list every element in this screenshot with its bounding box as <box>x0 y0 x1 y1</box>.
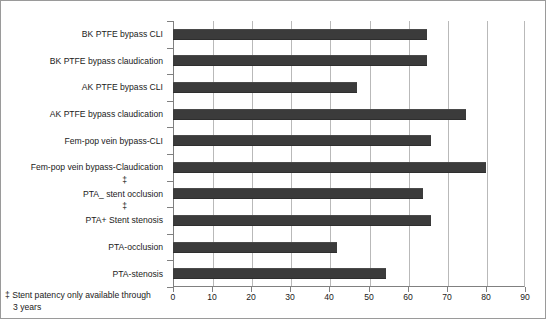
bar-slot <box>173 260 525 287</box>
footnote-line-2: 3 years <box>5 302 173 314</box>
footnote: ‡ Stent patency only available through 3… <box>5 290 173 313</box>
x-tick-label: 30 <box>285 292 295 302</box>
y-axis-category-label: PTA-occlusion <box>108 242 163 252</box>
y-axis-category-label: Fem-pop vein bypass-Claudication <box>31 162 163 172</box>
y-axis-label-row: BK PTFE bypass CLI <box>1 21 169 48</box>
bar[interactable] <box>173 268 386 279</box>
bar[interactable] <box>173 215 431 226</box>
x-tick-label: 20 <box>246 292 256 302</box>
y-axis-category-label: PTA-stenosis <box>113 269 163 279</box>
x-tick-label: 90 <box>520 292 530 302</box>
y-axis-label-row: PTA-stenosis <box>1 260 169 287</box>
x-tick-label: 70 <box>442 292 452 302</box>
bars-layer <box>173 21 525 287</box>
y-axis-label-row: AK PTFE bypass CLI <box>1 74 169 101</box>
y-axis-label-row: Fem-pop vein bypass-CLI <box>1 127 169 154</box>
bar-slot <box>173 21 525 48</box>
bar-slot <box>173 127 525 154</box>
bar-slot <box>173 101 525 128</box>
dagger-annotation: ‡ <box>122 175 127 185</box>
bar[interactable] <box>173 29 427 40</box>
bar-slot <box>173 181 525 208</box>
x-tick-label: 10 <box>207 292 217 302</box>
bar[interactable] <box>173 55 427 66</box>
bar[interactable] <box>173 162 486 173</box>
bar-slot <box>173 207 525 234</box>
y-axis-label-row: PTA-occlusion <box>1 234 169 261</box>
y-axis-category-label: Fem-pop vein bypass-CLI <box>65 136 163 146</box>
footnote-line-1: ‡ Stent patency only available through <box>5 290 151 300</box>
y-axis-category-label: BK PTFE bypass claudication <box>50 56 163 66</box>
bar[interactable] <box>173 242 337 253</box>
y-axis-category-label: PTA+ Stent stenosis <box>86 215 163 225</box>
y-axis-label-row: ‡ PTA_ stent occlusion <box>1 181 169 208</box>
y-axis-label-row: BK PTFE bypass claudication <box>1 48 169 75</box>
y-axis-category-label: AK PTFE bypass CLI <box>82 82 163 92</box>
y-axis-label-row: Fem-pop vein bypass-Claudication <box>1 154 169 181</box>
bar-slot <box>173 48 525 75</box>
bar-slot <box>173 154 525 181</box>
y-axis-category-label: AK PTFE bypass claudication <box>50 109 163 119</box>
y-axis-label-row: ‡ PTA+ Stent stenosis <box>1 207 169 234</box>
y-axis-category-label: PTA_ stent occlusion <box>83 189 163 199</box>
bar-slot <box>173 74 525 101</box>
x-tick-label: 60 <box>403 292 413 302</box>
bar[interactable] <box>173 188 423 199</box>
x-tick-label: 40 <box>324 292 334 302</box>
y-axis-label-row: AK PTFE bypass claudication <box>1 101 169 128</box>
bar[interactable] <box>173 82 357 93</box>
y-axis-labels: BK PTFE bypass CLI BK PTFE bypass claudi… <box>1 21 169 287</box>
x-tick-label: 80 <box>481 292 491 302</box>
bar[interactable] <box>173 135 431 146</box>
bar[interactable] <box>173 109 466 120</box>
dagger-annotation: ‡ <box>122 201 127 211</box>
bar-slot <box>173 234 525 261</box>
y-axis-category-label: BK PTFE bypass CLI <box>82 29 163 39</box>
x-tick-label: 50 <box>364 292 374 302</box>
chart-container: BK PTFE bypass CLI BK PTFE bypass claudi… <box>0 0 546 319</box>
